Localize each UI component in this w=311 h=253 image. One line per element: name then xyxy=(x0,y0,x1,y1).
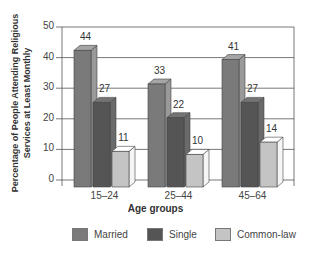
bar-common-law-2 xyxy=(260,137,283,187)
legend-item-single: Single xyxy=(147,226,197,242)
data-label: 14 xyxy=(260,123,284,134)
bar-common-law-0 xyxy=(112,146,135,187)
legend-label-single: Single xyxy=(169,229,197,240)
legend-item-married: Married xyxy=(72,226,128,242)
legend-label-married: Married xyxy=(94,229,128,240)
data-label: 22 xyxy=(167,99,191,110)
y-tick-label: 10 xyxy=(36,142,54,153)
x-tick-label: 15–24 xyxy=(75,190,135,201)
legend-item-common-law: Common-law xyxy=(215,226,296,242)
y-axis-title-line-2: Services at Least Monthly xyxy=(21,13,33,193)
legend: Married Single Common-law xyxy=(0,226,311,242)
y-tick-label: 30 xyxy=(36,81,54,92)
data-label: 10 xyxy=(186,135,210,146)
bar-common-law-1 xyxy=(186,149,209,187)
x-axis-title: Age groups xyxy=(0,203,311,214)
legend-swatch-married xyxy=(72,228,88,241)
y-tick-label: 20 xyxy=(36,112,54,123)
data-label: 33 xyxy=(148,65,172,76)
x-tick-label: 25–44 xyxy=(149,190,209,201)
data-label: 11 xyxy=(112,132,136,143)
data-label: 41 xyxy=(222,41,246,52)
data-label: 27 xyxy=(93,83,117,94)
x-tick-label: 45–64 xyxy=(223,190,283,201)
legend-swatch-common-law xyxy=(215,228,231,241)
legend-label-common-law: Common-law xyxy=(237,229,296,240)
y-tick-label: 0 xyxy=(36,173,54,184)
legend-swatch-single xyxy=(147,228,163,241)
data-label: 44 xyxy=(74,31,98,42)
y-tick-label: 40 xyxy=(36,51,54,62)
y-tick-label: 50 xyxy=(36,20,54,31)
y-axis-title-line-1: Percentage of People Attending Religious xyxy=(9,13,21,193)
y-axis-title: Percentage of People Attending Religious… xyxy=(9,13,39,193)
data-label: 27 xyxy=(241,83,265,94)
